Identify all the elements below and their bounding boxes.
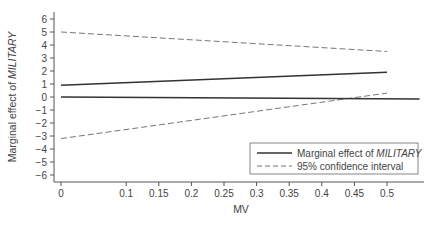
y-axis-label: Marginal effect of MILITARY	[6, 31, 18, 163]
marginal-effect-chart: 6543210−1−2−3−4−5−6 00.10.150.20.250.30.…	[0, 0, 437, 225]
x-tick-label: 0.35	[279, 188, 299, 199]
zero-reference-line-line	[61, 97, 420, 99]
y-tick-label: −6	[36, 170, 48, 181]
marginal-effect-of-military-line	[61, 72, 387, 85]
y-tick-label: −3	[36, 131, 48, 142]
x-tick-label: 0.5	[380, 188, 394, 199]
x-axis-label: MV	[233, 203, 249, 215]
y-tick-label: 2	[41, 66, 47, 77]
x-ticks: 00.10.150.20.250.30.350.40.450.5	[58, 182, 394, 199]
y-tick-label: −5	[36, 157, 48, 168]
x-tick-label: 0.25	[214, 188, 234, 199]
legend-item-confidence-interval: 95% confidence interval	[297, 161, 403, 172]
x-tick-label: 0	[58, 188, 64, 199]
legend: Marginal effect of MILITARY 95% confiden…	[250, 143, 423, 174]
chart-container: 6543210−1−2−3−4−5−6 00.10.150.20.250.30.…	[0, 0, 437, 225]
plot-lines	[61, 32, 420, 139]
y-tick-label: −2	[36, 118, 48, 129]
y-tick-label: −4	[36, 144, 48, 155]
95-confidence-interval-upper--line	[61, 32, 387, 52]
95-confidence-interval-lower--line	[61, 93, 387, 139]
x-tick-label: 0.3	[250, 188, 264, 199]
x-tick-label: 0.4	[315, 188, 329, 199]
y-tick-label: 5	[41, 27, 47, 38]
y-tick-label: −1	[36, 105, 48, 116]
y-tick-label: 6	[41, 14, 47, 25]
y-tick-label: 3	[41, 53, 47, 64]
y-tick-label: 0	[41, 92, 47, 103]
x-tick-label: 0.1	[119, 188, 133, 199]
legend-item-marginal-effect: Marginal effect of MILITARY	[297, 148, 423, 159]
y-ticks: 6543210−1−2−3−4−5−6	[36, 14, 54, 181]
y-tick-label: 4	[41, 40, 47, 51]
x-tick-label: 0.15	[149, 188, 169, 199]
x-tick-label: 0.2	[184, 188, 198, 199]
x-tick-label: 0.45	[345, 188, 365, 199]
y-tick-label: 1	[41, 79, 47, 90]
